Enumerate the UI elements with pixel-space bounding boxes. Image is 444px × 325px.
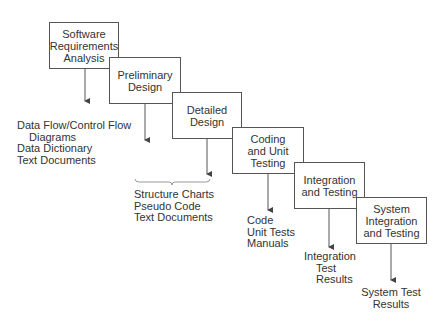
output-line: Code (247, 215, 295, 227)
stage-system-integration-and-testing: System Integration and Testing (356, 197, 427, 244)
grouping-brace (135, 179, 210, 185)
stage-label-line: and Testing (301, 186, 357, 198)
output-requirements-artifacts: Data Flow/Control Flow Diagrams Data Dic… (17, 120, 131, 167)
stage-label-line: Integration (366, 215, 418, 227)
stage-label-line: Software (62, 28, 105, 40)
stage-label-line: Design (190, 116, 224, 128)
output-coding-artifacts: Code Unit Tests Manuals (247, 215, 295, 250)
output-system-test-artifacts: System Test Results (361, 287, 421, 310)
stage-label-line: and Testing (363, 227, 419, 239)
stage-label-line: Design (128, 81, 162, 93)
stage-label-line: Preliminary (117, 69, 172, 81)
stage-label-line: and Unit (248, 145, 289, 157)
stage-label-line: Integration (304, 174, 356, 186)
output-line: Manuals (247, 238, 295, 250)
output-line: Text Documents (17, 155, 131, 167)
stage-label-line: Coding (251, 133, 286, 145)
stage-integration-and-testing: Integration and Testing (294, 162, 365, 209)
stage-preliminary-design: Preliminary Design (109, 57, 181, 104)
output-line: Data Flow/Control Flow (17, 120, 131, 132)
output-line: Results (361, 299, 421, 311)
stage-label-line: System (373, 203, 410, 215)
output-line: System Test (361, 287, 421, 299)
output-line: Text Documents (134, 212, 214, 224)
output-line: Results (304, 274, 356, 286)
output-integration-artifacts: Integration Test Results (304, 251, 356, 286)
stage-label-line: Analysis (64, 52, 105, 64)
stage-label-line: Testing (251, 157, 286, 169)
stage-label-line: Detailed (187, 104, 227, 116)
output-line: Integration (304, 251, 356, 263)
stage-label-line: Requirements (50, 40, 118, 52)
output-design-artifacts: Structure Charts Pseudo Code Text Docume… (134, 189, 214, 224)
output-line: Structure Charts (134, 189, 214, 201)
